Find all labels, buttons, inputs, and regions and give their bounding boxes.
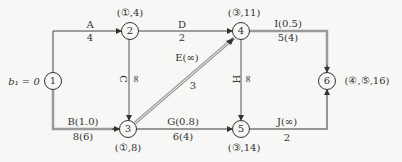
edge-H-name: H xyxy=(231,75,242,84)
edge-C-name: C xyxy=(118,75,129,83)
node-5: 5 xyxy=(232,120,250,138)
edge-C-value: ∞ xyxy=(131,75,142,83)
edge-G-value: 6(4) xyxy=(173,132,194,142)
node-6: 6 xyxy=(318,72,336,90)
edge-E-value: 3 xyxy=(190,81,196,91)
edge-J-name: J(∞) xyxy=(277,117,297,127)
edge-I-name: I(0.5) xyxy=(274,19,302,29)
edge-B-name: B(1.0) xyxy=(67,117,98,127)
edge-A-value: 4 xyxy=(87,33,93,43)
network-diagram: 1 2 3 4 5 6 b₁ = 0 (①,4) (①,8) (③,11) (③… xyxy=(0,0,402,162)
node-3: 3 xyxy=(119,120,137,138)
edge-B-value: 8(6) xyxy=(73,132,94,142)
node-2: 2 xyxy=(121,22,139,40)
edge-D-name: D xyxy=(178,20,186,30)
node-5-mark: (③,14) xyxy=(228,143,261,153)
node-1: 1 xyxy=(44,72,62,90)
source-label: b₁ = 0 xyxy=(8,77,40,87)
node-3-mark: (①,8) xyxy=(115,143,141,153)
node-4: 4 xyxy=(232,22,250,40)
edge-G-name: G(0.8) xyxy=(167,117,199,127)
node-2-mark: (①,4) xyxy=(117,8,143,18)
edge-J-value: 2 xyxy=(284,133,290,143)
edge-I-value: 5(4) xyxy=(278,33,299,43)
edge-D-value: 2 xyxy=(179,33,185,43)
node-6-mark: (④,⑤,16) xyxy=(345,76,390,86)
edge-E-name: E(∞) xyxy=(175,53,198,63)
edge-A-name: A xyxy=(86,20,93,30)
node-4-mark: (③,11) xyxy=(228,8,261,18)
edge-H-value: ∞ xyxy=(243,75,254,83)
